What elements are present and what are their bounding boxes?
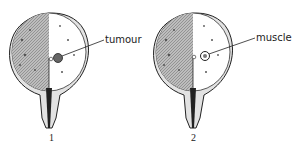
panel-number-1: 1 <box>49 132 54 143</box>
panel-1: tumour 1 <box>0 0 147 150</box>
panel-2: muscle 2 <box>147 0 294 150</box>
muscle-label: muscle <box>256 32 292 43</box>
tumour-label: tumour <box>105 34 142 45</box>
bladder-illustration-2 <box>147 0 294 150</box>
bladder-illustration-1 <box>0 0 147 150</box>
panel-number-2: 2 <box>191 132 196 143</box>
